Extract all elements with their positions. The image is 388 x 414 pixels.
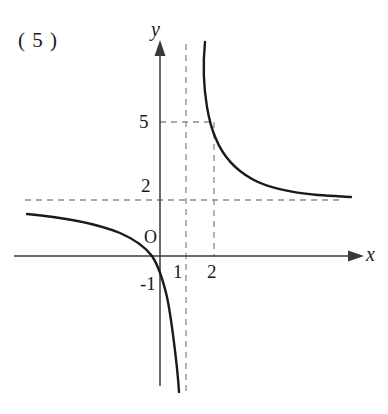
y-tick-label-neg1: -1 — [140, 274, 156, 293]
origin-label: O — [144, 228, 157, 246]
x-axis-arrowhead — [348, 251, 364, 262]
math-figure: ( 5 ) y x O 5 2 -1 1 2 — [0, 0, 388, 414]
x-axis-label: x — [366, 244, 375, 264]
y-axis-label: y — [151, 19, 160, 39]
y-tick-label-2: 2 — [141, 176, 151, 195]
y-tick-label-5: 5 — [139, 112, 149, 131]
y-axis-arrowhead — [155, 40, 166, 56]
problem-number-label: ( 5 ) — [18, 30, 58, 51]
graph-canvas — [0, 0, 388, 414]
x-tick-label-1: 1 — [173, 262, 183, 281]
curve-right-branch — [204, 42, 351, 197]
x-tick-label-2: 2 — [207, 262, 217, 281]
